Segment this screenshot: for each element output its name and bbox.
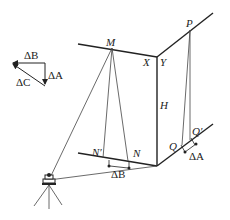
line-instrument-lower xyxy=(49,166,157,180)
label-p: P xyxy=(185,17,193,29)
label-m: M xyxy=(105,36,116,48)
label-q: Q xyxy=(169,140,177,152)
instrument-tripod-icon xyxy=(34,173,62,209)
upper-edge xyxy=(78,13,213,57)
upper-right-line xyxy=(157,13,213,57)
label-n: N xyxy=(132,147,141,159)
sight-lines-m xyxy=(49,48,128,180)
label-n-prime: N′ xyxy=(91,146,102,158)
label-delta-a-bottom: ΔA xyxy=(189,150,204,162)
delta-a-offset: ΔA xyxy=(181,138,204,162)
label-y: Y xyxy=(160,56,168,68)
line-m-n xyxy=(112,48,128,161)
survey-diagram: ΔB ΔA ΔC ΔB ΔA xyxy=(0,0,230,220)
sight-lines-p xyxy=(182,30,190,145)
label-delta-c-legend: ΔC xyxy=(16,76,30,88)
label-delta-b-bottom: ΔB xyxy=(111,168,125,180)
label-q-prime: Q′ xyxy=(192,125,203,137)
label-delta-a-legend: ΔA xyxy=(48,69,63,81)
vector-triangle-legend: ΔB ΔA ΔC xyxy=(13,49,63,88)
label-h: H xyxy=(159,99,169,111)
line-m-instrument xyxy=(49,48,112,180)
lower-left-line xyxy=(78,153,157,166)
label-delta-b-legend: ΔB xyxy=(24,49,38,61)
label-x: X xyxy=(142,56,151,68)
line-p-q xyxy=(182,30,190,145)
lower-right-line xyxy=(157,124,213,166)
